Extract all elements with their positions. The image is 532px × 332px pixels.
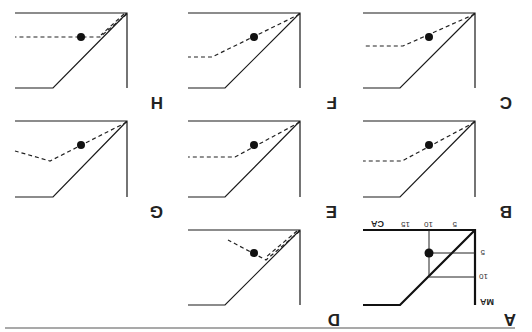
panel-label-b: B (500, 202, 512, 221)
data-point (250, 141, 258, 149)
x-tick-15: 15 (401, 220, 410, 229)
panel-d: D (188, 230, 340, 329)
panel-label-c: C (500, 93, 512, 112)
panel-b: B (363, 121, 512, 221)
data-point (250, 33, 258, 41)
data-point (425, 141, 433, 149)
x-axis-label: CA (371, 219, 384, 229)
panel-g: G (15, 121, 163, 221)
panel-label-g: G (150, 202, 163, 221)
data-point (425, 33, 433, 41)
panel-label-h: H (151, 93, 163, 112)
panel-label-f: F (327, 93, 337, 112)
data-point (77, 33, 85, 41)
panel-a: 5 10 15 CA 5 10 MA A (363, 219, 516, 329)
panel-f: F (188, 13, 337, 112)
y-axis-label: MA (480, 297, 494, 307)
data-point (425, 249, 434, 258)
panel-label-e: E (326, 202, 337, 221)
panel-label-d: D (328, 310, 340, 329)
panel-e: E (188, 121, 337, 221)
y-tick-5: 5 (480, 248, 485, 257)
panel-c: C (363, 13, 512, 112)
x-tick-10: 10 (424, 220, 433, 229)
panel-label-a: A (504, 310, 516, 329)
x-tick-5: 5 (452, 220, 457, 229)
data-point (250, 249, 258, 257)
panel-h: H (15, 13, 163, 112)
figure-canvas: H F C G E B D (0, 0, 532, 332)
data-point (77, 141, 85, 149)
y-tick-10: 10 (479, 272, 488, 281)
